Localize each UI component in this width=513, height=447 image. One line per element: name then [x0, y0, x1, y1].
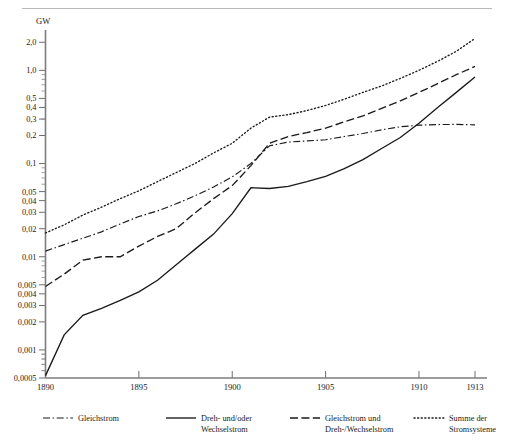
x-axis-tick-labels: 189018951900190519101913	[37, 382, 484, 392]
series-line-dashed	[46, 66, 476, 286]
x-tick-label: 1890	[37, 382, 54, 392]
series-layer	[46, 38, 476, 375]
y-tick-label: 0,004	[18, 290, 38, 299]
y-tick-label: 0,2	[26, 131, 36, 140]
y-tick-label: 0,002	[18, 318, 37, 327]
y-tick-label: 0,01	[22, 253, 37, 262]
y-tick-label: 0,003	[18, 301, 37, 310]
x-tick-label: 1913	[466, 382, 483, 392]
legend-label2-gleich_und_dreh: Dreh-/Wechselstrom	[325, 425, 394, 434]
y-tick-label: 0,0005	[14, 374, 37, 383]
chart-canvas: 2,01,00,50,40,30,20,10,050,040,030,020,0…	[0, 0, 513, 447]
legend-label2-summe: Stromsysteme	[449, 425, 496, 434]
y-axis-tick-labels: 2,01,00,50,40,30,20,10,050,040,030,020,0…	[14, 38, 38, 383]
series-line-solid	[46, 77, 476, 376]
legend-label-summe: Summe der	[449, 414, 487, 423]
y-tick-label: 0,3	[26, 115, 36, 124]
y-tick-label: 0,1	[26, 159, 36, 168]
y-axis-unit-label: GW	[36, 16, 51, 26]
y-tick-label: 0,02	[22, 225, 37, 234]
chart-legend: GleichstromDreh- und/oderWechselstromGle…	[43, 414, 496, 434]
legend-label-gleichstrom: Gleichstrom	[78, 414, 120, 423]
y-tick-label: 0,04	[22, 197, 37, 206]
chart-figure: 2,01,00,50,40,30,20,10,050,040,030,020,0…	[0, 0, 513, 447]
legend-label2-dreh_wechsel: Wechselstrom	[201, 425, 248, 434]
y-tick-label: 0,001	[18, 346, 37, 355]
y-tick-label: 0,005	[18, 281, 37, 290]
x-tick-label: 1905	[317, 382, 334, 392]
series-line-dotted	[46, 38, 476, 233]
x-tick-label: 1900	[224, 382, 241, 392]
y-tick-label: 0,5	[26, 94, 36, 103]
y-tick-label: 0,4	[26, 103, 37, 112]
y-tick-label: 0,03	[22, 208, 37, 217]
y-tick-label: 1,0	[26, 66, 36, 75]
x-tick-label: 1910	[410, 382, 427, 392]
y-axis-ticks	[39, 42, 46, 378]
legend-label-dreh_wechsel: Dreh- und/oder	[201, 414, 252, 423]
x-tick-label: 1895	[130, 382, 147, 392]
y-tick-label: 2,0	[26, 38, 36, 47]
x-axis-ticks	[46, 371, 476, 378]
legend-label-gleich_und_dreh: Gleichstrom und	[325, 414, 381, 423]
y-tick-label: 0,05	[22, 188, 37, 197]
